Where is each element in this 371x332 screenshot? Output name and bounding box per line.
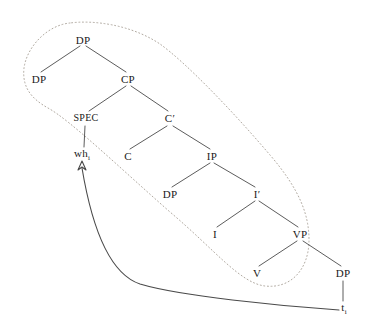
syntax-tree-diagram: DPDPCPSPECC′whiCIPDPI′IVPVDPti — [0, 0, 371, 332]
branch-cp-to-spec — [89, 86, 126, 111]
tree-node-label-vp: VP — [293, 228, 308, 240]
tree-node-trace: ti — [341, 302, 346, 316]
tree-node-label-cp: CP — [121, 73, 135, 85]
branch-lines — [41, 46, 343, 301]
tree-node-label-dp-left: DP — [32, 73, 47, 85]
tree-node-label-dp-obj: DP — [336, 267, 351, 279]
branch-ibar-to-vp — [259, 201, 298, 227]
tree-node-i: I — [213, 229, 217, 240]
tree-node-dp-subj: DP — [163, 189, 178, 200]
tree-node-label-dp-subj: DP — [163, 188, 178, 200]
tree-node-label-spec: SPEC — [73, 112, 98, 123]
tree-node-cp: CP — [121, 74, 135, 85]
branch-ip-to-ibar — [214, 163, 255, 187]
tree-node-dp-left: DP — [32, 74, 47, 85]
tree-node-label-i: I — [213, 228, 217, 240]
tree-node-dp-root: DP — [76, 35, 91, 46]
branch-ibar-to-i — [217, 201, 255, 227]
branch-cbar-to-c — [130, 126, 167, 149]
tree-node-label-c: C — [124, 150, 132, 162]
branch-cbar-to-ip — [173, 126, 210, 149]
tree-node-label-dp-root: DP — [76, 34, 91, 46]
tree-node-dp-obj: DP — [336, 268, 351, 279]
branch-spec-to-wh — [84, 126, 85, 147]
tree-node-cbar: C′ — [165, 113, 175, 124]
dotted-constituent-envelope — [24, 22, 309, 286]
tree-node-spec: SPEC — [73, 113, 98, 123]
branch-dp-root-to-dp-left — [41, 46, 80, 72]
branch-cp-to-cbar — [131, 86, 168, 111]
tree-svg-canvas — [0, 0, 371, 332]
tree-node-label-v: V — [253, 267, 261, 279]
tree-node-label-ip: IP — [207, 150, 217, 162]
branch-dp-root-to-cp — [86, 46, 126, 72]
branch-vp-to-dp-obj — [303, 241, 341, 266]
tree-node-v: V — [253, 268, 261, 279]
branch-vp-to-v — [259, 241, 297, 266]
tree-node-ip: IP — [207, 151, 217, 162]
tree-node-label-wh: wh — [74, 147, 88, 159]
tree-node-label-cbar: C′ — [165, 112, 175, 124]
tree-node-ibar: I′ — [254, 189, 261, 200]
tree-node-vp: VP — [293, 229, 308, 240]
tree-node-wh: whi — [74, 148, 90, 162]
branch-ip-to-dp-subj — [172, 163, 210, 187]
tree-node-subscript-wh: i — [88, 154, 90, 162]
tree-node-c: C — [124, 151, 132, 162]
tree-node-label-ibar: I′ — [254, 188, 261, 200]
tree-node-subscript-trace: i — [345, 308, 347, 316]
